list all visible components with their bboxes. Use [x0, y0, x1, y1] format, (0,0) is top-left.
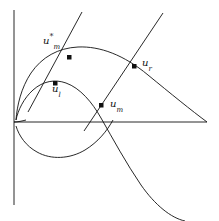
outer-hugoniot-curve: [16, 47, 207, 122]
label-u-m-star-sub: m: [53, 43, 60, 51]
label-u-l-sub: l: [58, 91, 60, 99]
label-u-m: um: [110, 99, 123, 109]
label-u-r: ur: [142, 58, 152, 68]
inner-hugoniot-curve: [16, 81, 185, 221]
characteristic-line-left: [28, 12, 82, 112]
label-u-m-star-sup: *: [49, 32, 53, 41]
marker-u-m: [99, 103, 104, 108]
diagram-svg: [0, 0, 219, 221]
label-u-m-star: u*m: [43, 36, 60, 46]
label-u-l: ul: [52, 84, 61, 94]
figure-canvas: u*m ur ul um: [0, 0, 219, 221]
inner-lower-loop: [16, 120, 113, 157]
label-u-r-sub: r: [148, 65, 151, 73]
label-u-m-sub: m: [116, 106, 123, 114]
marker-u-m-star: [67, 55, 72, 60]
marker-u-r: [132, 64, 137, 69]
